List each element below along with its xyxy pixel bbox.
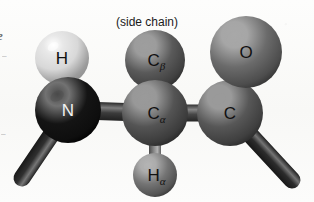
- side-chain-caption: (side chain): [116, 15, 178, 29]
- atom-layer: [35, 16, 282, 197]
- atom-sphere-alpha-hydrogen: [133, 153, 177, 197]
- atom-sphere-amide-hydrogen: [35, 31, 89, 85]
- atom-sphere-carbonyl-carbon: [197, 80, 263, 146]
- atom-sphere-backbone-nitrogen: [35, 77, 101, 143]
- atom-sphere-carbonyl-oxygen: [210, 16, 282, 88]
- amino-acid-figure: e – – HNCβCαHαCO (side chain): [0, 0, 314, 202]
- molecule-drawing-canvas: [0, 0, 314, 202]
- atom-sphere-alpha-carbon: [122, 80, 188, 146]
